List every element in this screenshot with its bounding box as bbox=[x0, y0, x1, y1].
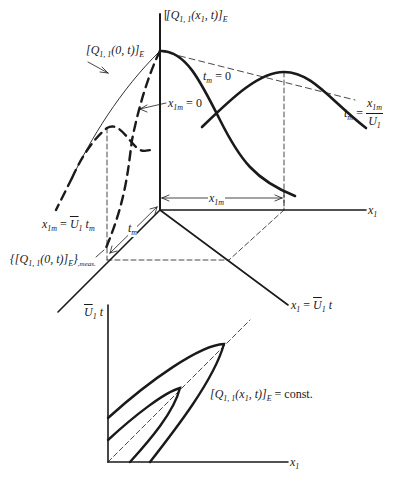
x1m-dimension-label: x1m bbox=[208, 192, 225, 207]
x1m-equation-label: x1m = U1 tm bbox=[42, 218, 95, 233]
curve-tm0-label: tm = 0 bbox=[203, 70, 231, 85]
x1-axis-label: x1 bbox=[368, 204, 377, 219]
diag-axis-label: x1 = U1 t bbox=[291, 299, 332, 314]
bottom-x-axis-label: x1 bbox=[290, 456, 299, 471]
diagram-graphics bbox=[0, 0, 400, 477]
curve-tm-label: tm = x1m U1 bbox=[344, 97, 383, 131]
contour-inner bbox=[108, 388, 180, 462]
envelope-label: [Q1, 1(0, t)]E bbox=[86, 44, 144, 59]
envelope-curve bbox=[72, 51, 160, 178]
bottom-y-axis-label: U1 t bbox=[84, 306, 103, 321]
tm-dimension-label: tm bbox=[128, 222, 137, 237]
curve-x1m0-label: x1m = 0 bbox=[168, 97, 202, 112]
contour-label: [Q1, 1(x1, t)]E = const. bbox=[210, 388, 313, 403]
measured-label: {[Q1, 1(0, t)]E},meas. bbox=[10, 253, 96, 268]
curve-measured bbox=[72, 126, 151, 178]
diagram-canvas: [[Q1, 1(x1, t)]E [Q1, 1(0, t)]E tm = 0 x… bbox=[0, 0, 400, 477]
q-axis-label: [[Q1, 1(x1, t)]E bbox=[164, 9, 228, 24]
